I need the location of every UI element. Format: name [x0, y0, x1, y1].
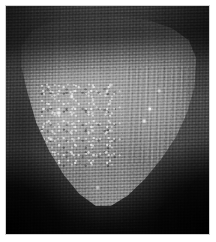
plate-vignette-layer: [6, 6, 209, 234]
photograph-plate: [6, 6, 209, 234]
image-viewport: [0, 0, 216, 242]
